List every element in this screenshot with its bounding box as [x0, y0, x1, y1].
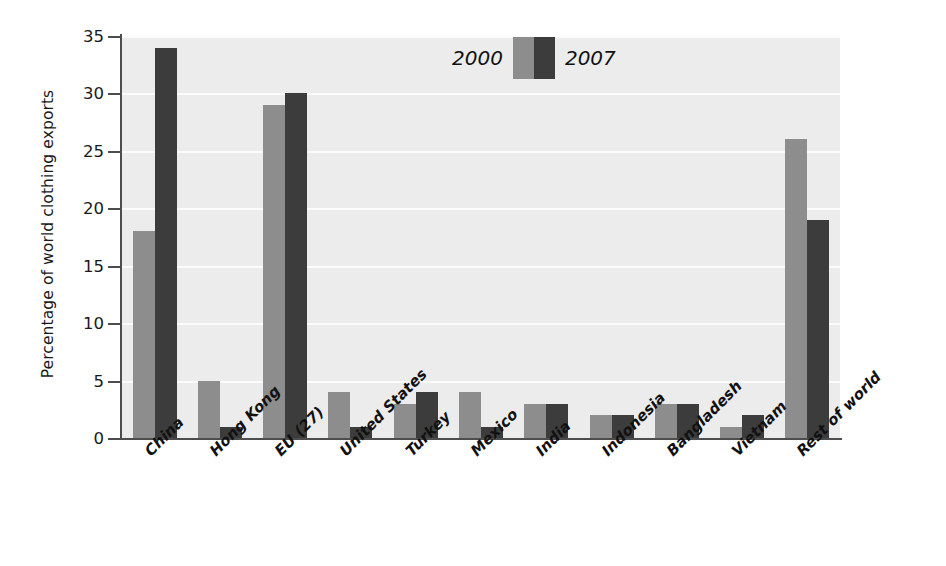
- x-axis-tick-label: Vietnam: [728, 397, 790, 459]
- legend-swatches: [513, 37, 555, 79]
- legend-swatch-2000: [513, 37, 534, 79]
- x-axis-tick-label: China: [141, 413, 187, 459]
- legend-swatch-2007: [534, 37, 555, 79]
- x-axis-tick-label: Mexico: [467, 405, 522, 460]
- x-axis-tick-label: EU (27): [271, 403, 328, 460]
- legend-label-2000: 2000: [452, 46, 503, 70]
- x-axis-tick-label: Turkey: [402, 408, 454, 460]
- x-axis-tick-label: India: [532, 417, 575, 460]
- legend: 2000 2007: [452, 36, 616, 80]
- x-axis-tick-label: Rest of world: [793, 368, 885, 460]
- legend-label-2007: 2007: [565, 46, 616, 70]
- clothing-exports-bar-chart: Percentage of world clothing exports 051…: [0, 0, 946, 566]
- x-axis-tick-label: Indonesia: [598, 389, 669, 460]
- x-axis-tick-labels: ChinaHong KongEU (27)United StatesTurkey…: [0, 0, 946, 566]
